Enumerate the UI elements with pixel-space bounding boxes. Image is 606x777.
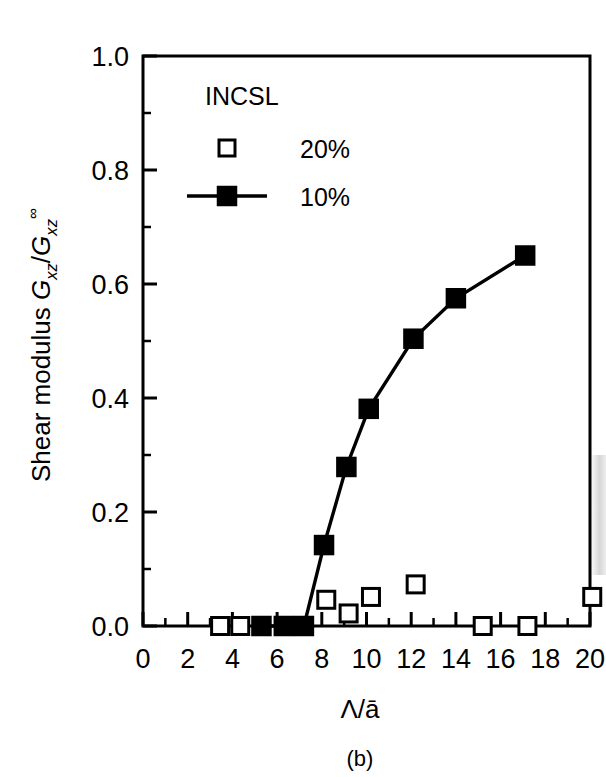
data-point-10%: [252, 617, 271, 636]
legend-marker-20%: [219, 140, 235, 156]
data-point-20%: [340, 605, 357, 622]
x-tick-label-2: 2: [180, 644, 195, 674]
data-point-10%: [337, 457, 356, 476]
series-line-10%: [261, 256, 525, 627]
data-point-20%: [362, 588, 379, 605]
data-point-10%: [359, 399, 378, 418]
data-point-10%: [516, 246, 535, 265]
legend-title: INCSL: [205, 82, 279, 110]
y-tick-label-0.2: 0.2: [91, 498, 129, 528]
y-axis-tick-labels: 0.00.20.40.60.81.0: [91, 42, 129, 642]
data-point-20%: [232, 618, 249, 635]
series-markers: [212, 246, 601, 636]
y-axis-title-text: Shear modulus Gxz/Gxz∞: [24, 208, 61, 482]
figure-caption: (b): [347, 746, 374, 771]
data-point-10%: [294, 617, 313, 636]
series-lines: [261, 256, 525, 627]
data-point-20%: [584, 588, 601, 605]
data-point-10%: [404, 329, 423, 348]
figure-container: 0.00.20.40.60.81.0 02468101214161820 INC…: [0, 0, 606, 777]
y-tick-label-0.8: 0.8: [91, 156, 129, 186]
legend-marker-10%: [218, 187, 237, 206]
y-axis-title: Shear modulus Gxz/Gxz∞: [24, 208, 61, 482]
data-point-20%: [212, 618, 229, 635]
x-tick-label-8: 8: [314, 644, 329, 674]
legend-label-20%: 20%: [300, 135, 350, 163]
plot-frame: [143, 56, 590, 626]
y-tick-label-0.0: 0.0: [91, 612, 129, 642]
x-axis-title: Λ/ā: [340, 694, 380, 724]
y-tick-label-0.6: 0.6: [91, 270, 129, 300]
x-tick-label-18: 18: [530, 644, 560, 674]
data-point-10%: [446, 289, 465, 308]
data-point-20%: [318, 591, 335, 608]
x-tick-label-10: 10: [351, 644, 381, 674]
chart-legend: INCSL 20%10%: [187, 82, 350, 211]
legend-label-10%: 10%: [300, 183, 350, 211]
axes-frame: [143, 56, 590, 626]
x-tick-label-4: 4: [225, 644, 240, 674]
data-point-20%: [519, 618, 536, 635]
chart-canvas: 0.00.20.40.60.81.0 02468101214161820 INC…: [0, 0, 606, 777]
data-point-10%: [274, 617, 293, 636]
y-tick-label-1.0: 1.0: [91, 42, 129, 72]
data-point-10%: [315, 536, 334, 555]
x-axis-tick-labels: 02468101214161820: [135, 644, 605, 674]
x-tick-label-12: 12: [396, 644, 426, 674]
x-tick-label-6: 6: [270, 644, 285, 674]
y-tick-label-0.4: 0.4: [91, 384, 129, 414]
legend-entries: 20%10%: [187, 135, 350, 211]
x-tick-label-16: 16: [486, 644, 516, 674]
data-point-20%: [474, 618, 491, 635]
data-point-20%: [407, 576, 424, 593]
x-tick-label-20: 20: [575, 644, 605, 674]
x-tick-label-14: 14: [441, 644, 471, 674]
x-tick-label-0: 0: [135, 644, 150, 674]
